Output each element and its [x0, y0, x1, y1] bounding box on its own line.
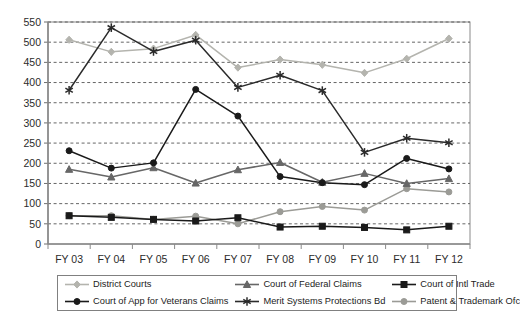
- data-point-circle: [319, 203, 325, 209]
- data-point-circle: [151, 160, 157, 166]
- data-point-circle: [446, 189, 452, 195]
- y-axis-tick-label: 500: [23, 36, 41, 48]
- x-axis-tick-label: FY 03: [55, 253, 83, 265]
- data-point-circle: [401, 299, 407, 305]
- data-point-circle: [277, 209, 283, 215]
- data-point-circle: [108, 165, 114, 171]
- chart-canvas: 050100150200250300350400450500550FY 03FY…: [0, 0, 479, 270]
- x-axis-tick-label: FY 06: [182, 253, 210, 265]
- x-axis-tick-label: FY 07: [224, 253, 252, 265]
- legend-marker-circle-icon: [64, 296, 90, 307]
- legend-item[interactable]: Court of Intl Trade: [385, 279, 520, 290]
- y-axis-tick-label: 250: [23, 137, 41, 149]
- data-point-circle: [235, 221, 241, 227]
- x-axis-tick-label: FY 11: [393, 253, 420, 265]
- data-point-square: [66, 213, 72, 219]
- y-axis-tick-label: 550: [23, 16, 41, 28]
- legend-marker-triangle-icon: [234, 279, 260, 290]
- data-point-circle: [362, 207, 368, 213]
- data-point-square: [151, 216, 157, 222]
- x-axis-tick-label: FY 12: [435, 253, 463, 265]
- data-point-circle: [193, 86, 199, 92]
- legend-item-label: Court of Federal Claims: [263, 280, 361, 289]
- legend-item[interactable]: Patent & Trademark Ofc: [385, 296, 520, 307]
- data-point-circle: [74, 299, 80, 305]
- data-point-square: [446, 223, 452, 229]
- data-point-circle: [404, 155, 410, 161]
- data-point-circle: [277, 174, 283, 180]
- legend-item[interactable]: District Courts: [58, 279, 228, 290]
- y-axis-tick-label: 350: [23, 97, 41, 109]
- data-point-circle: [66, 148, 72, 154]
- y-axis-tick-label: 100: [23, 197, 41, 209]
- legend-item-label: District Courts: [93, 280, 151, 289]
- data-point-circle: [446, 166, 452, 172]
- data-point-square: [108, 214, 114, 220]
- y-axis-tick-label: 150: [23, 177, 41, 189]
- x-axis-tick-label: FY 10: [351, 253, 379, 265]
- legend-item-label: Merit Systems Protections Bd: [263, 297, 385, 306]
- x-axis-tick-label: FY 08: [266, 253, 294, 265]
- data-point-square: [401, 282, 407, 288]
- legend-item-label: Court of App for Veterans Claims: [93, 297, 228, 306]
- data-point-square: [235, 215, 241, 221]
- y-axis-tick-label: 50: [29, 218, 41, 230]
- legend-item[interactable]: Court of App for Veterans Claims: [58, 296, 228, 307]
- legend-marker-diamond-icon: [64, 279, 90, 290]
- legend-marker-square-icon: [391, 279, 417, 290]
- x-axis-tick-label: FY 04: [97, 253, 125, 265]
- y-axis-tick-label: 200: [23, 157, 41, 169]
- chart-legend: District CourtsCourt of Federal ClaimsCo…: [57, 275, 457, 311]
- y-axis-tick-label: 400: [23, 76, 41, 88]
- y-axis-tick-label: 0: [35, 238, 41, 250]
- data-point-square: [277, 224, 283, 230]
- x-axis-tick-label: FY 09: [308, 253, 336, 265]
- data-point-square: [404, 227, 410, 233]
- data-point-diamond: [74, 281, 81, 288]
- legend-marker-asterisk-icon: [234, 296, 260, 307]
- data-point-circle: [362, 182, 368, 188]
- legend-item[interactable]: Merit Systems Protections Bd: [228, 296, 385, 307]
- x-axis-tick-label: FY 05: [140, 253, 168, 265]
- legend-item-label: Court of Intl Trade: [420, 280, 494, 289]
- data-point-square: [362, 224, 368, 230]
- legend-item[interactable]: Court of Federal Claims: [228, 279, 385, 290]
- legend-item-label: Patent & Trademark Ofc: [420, 297, 520, 306]
- data-point-circle: [319, 180, 325, 186]
- data-point-square: [193, 218, 199, 224]
- data-point-square: [319, 223, 325, 229]
- data-point-circle: [235, 113, 241, 119]
- y-axis-tick-label: 300: [23, 117, 41, 129]
- legend-marker-circle-icon: [391, 296, 417, 307]
- y-axis-tick-label: 450: [23, 56, 41, 68]
- plot-area: 050100150200250300350400450500550FY 03FY…: [0, 0, 479, 270]
